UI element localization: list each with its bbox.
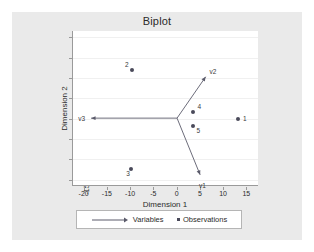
x-axis-tick-mark — [177, 187, 178, 190]
observation-label-5: 5 — [197, 127, 201, 134]
observation-marker — [130, 68, 134, 72]
x-axis-tick-mark — [246, 187, 247, 190]
variable-label-v3: v3 — [78, 115, 85, 122]
graph-card: Biplot Dimension 2 -15-10-505101520 -20-… — [12, 12, 302, 240]
variable-label-v1: v1 — [199, 182, 206, 189]
x-axis-tick-label: 5 — [189, 190, 211, 197]
x-axis-tick-mark — [130, 187, 131, 190]
observation-marker — [236, 117, 240, 121]
plot-area: 12345 v1v2v3 — [72, 31, 258, 186]
legend-entry-variables: Variables — [91, 215, 164, 224]
variable-label-v2: v2 — [209, 68, 216, 75]
arrow-icon — [91, 216, 131, 224]
x-axis-title: Dimension 1 — [72, 200, 258, 209]
legend-label-variables: Variables — [133, 215, 164, 224]
dot-marker-icon — [177, 218, 181, 222]
legend-label-observations: Observations — [183, 215, 227, 224]
plot-surface: Biplot Dimension 2 -15-10-505101520 -20-… — [12, 12, 302, 240]
observation-marker — [191, 124, 195, 128]
page-title: Biplot — [12, 15, 302, 27]
x-axis-tick-label: 0 — [166, 190, 188, 197]
x-axis-tick-mark — [223, 187, 224, 190]
observation-marker — [191, 110, 195, 114]
x-axis-tick-mark — [153, 187, 154, 190]
legend-entry-observations: Observations — [177, 215, 228, 224]
observation-label-4: 4 — [197, 103, 201, 110]
chart-legend: Variables Observations — [76, 210, 242, 229]
observation-label-3: 3 — [126, 170, 130, 177]
x-axis-tick-label: -5 — [142, 190, 164, 197]
y-axis-title: Dimension 2 — [60, 58, 69, 158]
observation-label-1: 1 — [243, 115, 247, 122]
screenshot-root: Biplot Dimension 2 -15-10-505101520 -20-… — [0, 0, 314, 252]
x-axis-tick-mark — [84, 187, 85, 190]
x-axis-tick-label: -15 — [96, 190, 118, 197]
x-axis-tick-mark — [107, 187, 108, 190]
x-axis-tick-label: 15 — [235, 190, 257, 197]
x-axis-tick-label: 10 — [212, 190, 234, 197]
observation-label-2: 2 — [125, 61, 129, 68]
x-axis-tick-label: -20 — [73, 190, 95, 197]
x-axis-tick-label: -10 — [119, 190, 141, 197]
observation-markers: 12345 — [73, 31, 258, 185]
